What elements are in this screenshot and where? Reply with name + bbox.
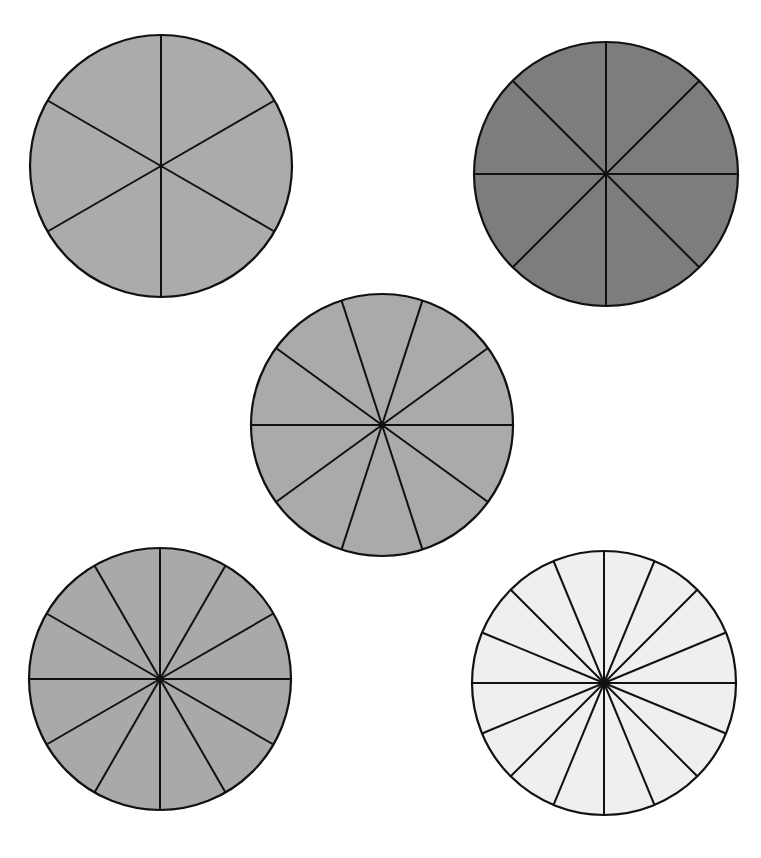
circle-tenths	[251, 294, 513, 556]
center-point	[601, 680, 607, 686]
center-point	[159, 164, 163, 168]
circle-sixteenths	[472, 551, 736, 815]
center-point	[157, 676, 163, 682]
circle-sixths	[30, 35, 292, 297]
circle-twelfths	[29, 548, 291, 810]
center-point	[604, 172, 608, 176]
circle-eighths	[474, 42, 738, 306]
fraction-circles-diagram	[0, 0, 761, 858]
center-point	[379, 422, 385, 428]
